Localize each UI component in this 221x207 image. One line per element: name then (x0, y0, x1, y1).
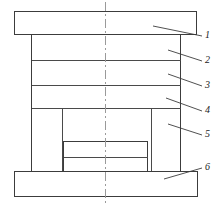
callout-label-1: 1 (205, 30, 210, 40)
technical-drawing-canvas: 1 2 3 4 5 6 (0, 0, 221, 207)
callout-label-5: 5 (205, 129, 210, 139)
callout-label-2: 2 (205, 55, 210, 65)
callout-label-3: 3 (205, 80, 210, 90)
callout-label-4: 4 (205, 105, 210, 115)
callout-label-6: 6 (205, 162, 210, 172)
cross-section-diagram (0, 0, 221, 207)
